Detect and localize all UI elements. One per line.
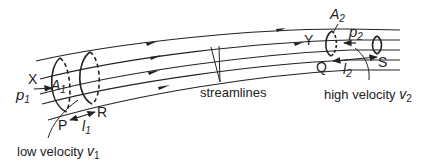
streamline-1 — [36, 29, 400, 61]
label-l1: l1 — [82, 118, 91, 136]
label-streamlines: streamlines — [200, 85, 267, 100]
bernoulli-diagram: X Y P R Q S A1 A2 p1 p2 l1 l2 streamline… — [0, 0, 435, 167]
label-P: P — [58, 117, 67, 133]
cross-section-a2 — [115, 0, 382, 56]
label-A1: A1 — [50, 77, 66, 95]
label-low-velocity: low velocity v1 — [17, 143, 100, 161]
flow-arrow-icon — [158, 85, 170, 90]
label-Y: Y — [304, 32, 314, 48]
label-p2: p2 — [348, 23, 363, 42]
label-S: S — [378, 54, 387, 70]
label-A2: A2 — [329, 6, 345, 24]
label-high-velocity: high velocity v2 — [324, 86, 412, 104]
pressure-arrow-p1 — [34, 88, 52, 89]
leader-streamlines-1 — [211, 47, 220, 82]
label-R: R — [97, 104, 107, 120]
label-p1: p1 — [15, 86, 30, 105]
leader-streamlines-2 — [219, 46, 220, 82]
label-l2: l2 — [343, 61, 352, 79]
label-X: X — [28, 71, 38, 87]
label-Q: Q — [316, 59, 327, 75]
flow-arrows — [146, 28, 304, 90]
flow-arrow-icon — [150, 55, 162, 60]
leader-high-velocity — [355, 48, 369, 80]
